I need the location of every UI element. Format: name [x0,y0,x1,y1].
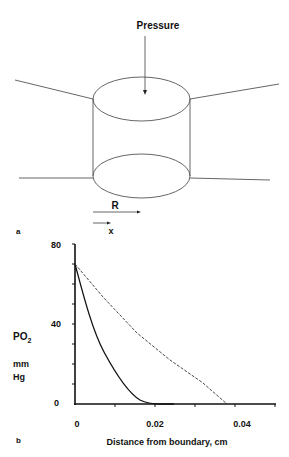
dashed-curve [75,264,227,404]
y-tick-80: 80 [51,240,61,250]
x-axis-label: Distance from boundary, cm [107,437,228,447]
y-tick-0: 0 [54,398,59,408]
cylinder-top [93,77,190,121]
pressure-arrow-icon [143,36,147,95]
y-axis-label: PO2 [13,331,31,344]
boundary-line-top-right [190,84,279,99]
boundary-line-top-left [15,80,93,99]
x-arrow-icon [93,222,111,225]
x-tick-0.04: 0.04 [233,419,251,429]
cylinder-bottom [93,154,190,198]
boundary-line-bottom-right [190,178,270,180]
y-axis-unit-mm: mm [13,359,29,369]
pressure-label: Pressure [137,20,180,31]
y-tick-40: 40 [51,319,61,329]
panel-a-label: a [16,227,21,236]
x-tick-0: 0 [74,419,79,429]
panel-b-label: b [16,436,21,445]
r-label: R [111,200,119,211]
chart: 80 40 0 0 0.02 0.04 PO2 mm Hg Distance f… [13,240,276,447]
solid-curve [75,264,174,404]
x-tick-0.02: 0.02 [146,419,164,429]
cylinder-diagram [15,77,279,198]
x-label: x [108,226,113,236]
y-axis-unit-hg: Hg [13,372,25,382]
figure: Pressure R x a [0,0,289,457]
